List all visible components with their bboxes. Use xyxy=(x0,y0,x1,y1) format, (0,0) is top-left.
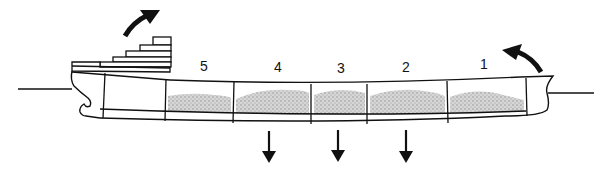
hold-label-1: 1 xyxy=(480,56,488,72)
hold-label-5: 5 xyxy=(200,58,208,74)
hull-bottom-line xyxy=(100,116,505,121)
down-arrow-icon-2 xyxy=(331,130,345,162)
cargo-hold-4 xyxy=(236,90,309,115)
cargo-hold-2 xyxy=(370,90,445,115)
curved-up-arrow-icon-bow xyxy=(502,44,541,72)
down-arrow-icon-1 xyxy=(262,131,276,163)
superstructure xyxy=(100,37,171,67)
cargo-hold-1 xyxy=(450,92,524,113)
cargo-hold-5 xyxy=(168,94,231,112)
down-arrow-icon-3 xyxy=(399,130,413,163)
cargo-loads xyxy=(168,90,524,115)
cargo-hold-3 xyxy=(314,90,365,115)
hold-label-3: 3 xyxy=(337,60,345,76)
hold-label-2: 2 xyxy=(402,59,410,75)
stern-profile xyxy=(71,71,100,118)
hold-label-4: 4 xyxy=(274,59,282,75)
ship-sagging-diagram: 5 4 3 2 1 xyxy=(0,0,607,178)
curved-up-arrow-icon-stern xyxy=(125,10,160,36)
hull-deck-line xyxy=(170,77,520,82)
